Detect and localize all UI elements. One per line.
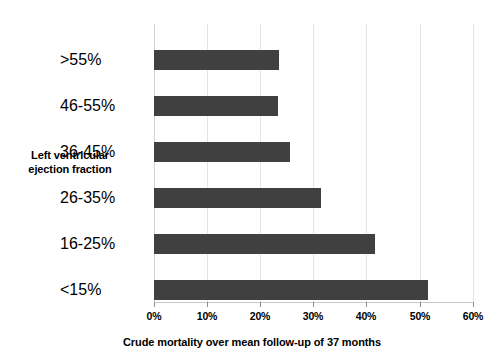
y-tick-label-0: >55% <box>60 53 148 67</box>
bar-chart-figure: Left ventricular ejection fraction >55% … <box>0 0 504 364</box>
y-axis-tick-labels: >55% 46-55% 36-45% 26-35% 16-25% <15% <box>60 24 148 302</box>
y-tick-label-2: 36-45% <box>60 145 148 159</box>
x-tick-label-20: 20% <box>240 310 280 322</box>
bar-36-45 <box>154 142 290 162</box>
x-axis-title: Crude mortality over mean follow-up of 3… <box>0 336 504 348</box>
x-tick-mark-40 <box>366 302 367 307</box>
bar-16-25 <box>154 234 375 254</box>
x-tick-label-0: 0% <box>134 310 174 322</box>
y-tick-label-1: 46-55% <box>60 99 148 113</box>
bar-lt15 <box>154 280 428 300</box>
bar-gt55 <box>154 50 279 70</box>
plot-area <box>154 24 473 302</box>
gridline-50 <box>420 24 421 302</box>
x-tick-label-30: 30% <box>293 310 333 322</box>
x-tick-mark-50 <box>420 302 421 307</box>
gridline-40 <box>366 24 367 302</box>
x-tick-label-50: 50% <box>400 310 440 322</box>
bar-46-55 <box>154 96 278 116</box>
gridline-60 <box>473 24 474 302</box>
x-tick-label-60: 60% <box>453 310 493 322</box>
x-tick-mark-0 <box>154 302 155 307</box>
y-tick-label-3: 26-35% <box>60 191 148 205</box>
gridline-30 <box>313 24 314 302</box>
x-axis-line <box>154 302 474 303</box>
x-tick-mark-20 <box>260 302 261 307</box>
x-tick-mark-30 <box>313 302 314 307</box>
y-tick-label-5: <15% <box>60 283 148 297</box>
y-tick-label-4: 16-25% <box>60 237 148 251</box>
bar-26-35 <box>154 188 321 208</box>
x-tick-label-40: 40% <box>346 310 386 322</box>
x-tick-mark-10 <box>207 302 208 307</box>
x-tick-label-10: 10% <box>187 310 227 322</box>
x-tick-mark-60 <box>473 302 474 307</box>
